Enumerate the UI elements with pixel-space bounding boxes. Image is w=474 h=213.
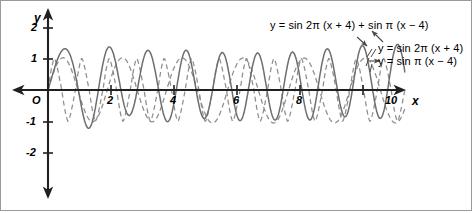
- x-tick-label-2: 2: [107, 95, 113, 106]
- curve-sum: [48, 44, 405, 128]
- y-tick-label-neg2: -2: [26, 147, 36, 158]
- origin-label: O: [32, 95, 41, 106]
- leader-arrow-component-1: [372, 31, 383, 42]
- curve-label-component-1: y = sin 2π (x + 4): [378, 43, 463, 54]
- curve-layer: [48, 44, 405, 128]
- leader-arrow-sum: [357, 37, 367, 46]
- x-tick-label-6: 6: [233, 95, 239, 106]
- plot-canvas: [0, 0, 474, 213]
- x-tick-label-4: 4: [170, 95, 176, 106]
- curve-label-component-2: y = sin π (x − 4): [378, 56, 457, 67]
- graph-figure: y x O 2 1 -1 -2 2 4 6 8 10 y = sin 2π (x…: [0, 0, 474, 213]
- y-tick-label-1: 1: [31, 53, 37, 64]
- leader-stroke-d: [370, 64, 372, 72]
- x-tick-label-10: 10: [385, 95, 397, 106]
- x-tick-label-8: 8: [296, 95, 302, 106]
- x-axis-label: x: [412, 95, 419, 107]
- curve-label-sum: y = sin 2π (x + 4) + sin π (x − 4): [270, 20, 429, 31]
- y-tick-label-neg1: -1: [26, 116, 36, 127]
- y-tick-label-2: 2: [31, 22, 37, 33]
